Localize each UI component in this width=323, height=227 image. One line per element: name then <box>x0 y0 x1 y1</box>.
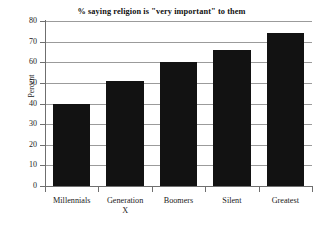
y-tick-mark <box>40 42 45 43</box>
y-tick-mark <box>40 124 45 125</box>
x-tick-mark <box>259 187 260 192</box>
x-tick-label-line: X <box>98 206 151 216</box>
x-tick-mark <box>152 187 153 192</box>
y-tick-mark <box>40 83 45 84</box>
bar-millennials <box>53 104 90 187</box>
y-tick-mark <box>40 145 45 146</box>
y-tick-label: 20 <box>14 141 37 149</box>
x-tick-mark <box>312 187 313 192</box>
bar-greatest <box>267 33 304 186</box>
y-tick-label: 0 <box>14 182 37 190</box>
y-tick-label: 80 <box>14 17 37 25</box>
x-axis-line <box>45 186 313 187</box>
x-tick-label: Boomers <box>152 196 205 206</box>
bar-boomers <box>160 62 197 186</box>
x-tick-label: Greatest <box>259 196 312 206</box>
x-tick-label: Silent <box>205 196 258 206</box>
x-tick-label-line: Millennials <box>45 196 98 206</box>
x-tick-label: GenerationX <box>98 196 151 216</box>
x-tick-label-line: Silent <box>205 196 258 206</box>
x-tick-mark <box>205 187 206 192</box>
y-tick-mark <box>40 104 45 105</box>
gridline <box>45 21 312 22</box>
y-tick-label: 50 <box>14 79 37 87</box>
y-tick-label: 70 <box>14 38 37 46</box>
y-tick-label: 40 <box>14 100 37 108</box>
x-tick-label-line: Boomers <box>152 196 205 206</box>
x-tick-label-line: Greatest <box>259 196 312 206</box>
bar-silent <box>213 50 250 186</box>
x-tick-label-line: Generation <box>98 196 151 206</box>
x-tick-mark <box>98 187 99 192</box>
y-tick-mark <box>40 165 45 166</box>
y-axis-line <box>45 20 46 187</box>
x-tick-mark <box>45 187 46 192</box>
y-tick-mark <box>40 62 45 63</box>
y-tick-mark <box>40 21 45 22</box>
x-tick-label: Millennials <box>45 196 98 206</box>
y-tick-label: 60 <box>14 58 37 66</box>
bar-chart-figure: % saying religion is "very important" to… <box>0 0 323 227</box>
chart-title: % saying religion is "very important" to… <box>0 7 323 16</box>
bar-generation-x <box>106 81 143 186</box>
y-tick-label: 30 <box>14 120 37 128</box>
plot-area <box>45 21 312 186</box>
y-tick-label: 10 <box>14 161 37 169</box>
